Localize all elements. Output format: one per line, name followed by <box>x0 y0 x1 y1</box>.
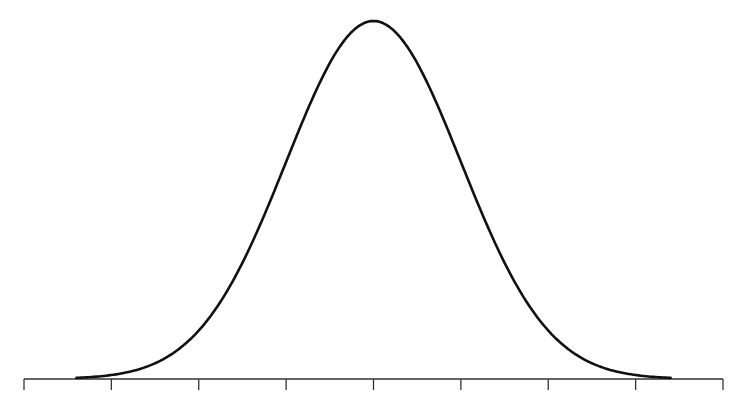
normal-distribution-chart <box>0 0 743 412</box>
bell-curve <box>76 21 670 378</box>
x-axis <box>24 379 723 390</box>
x-axis-ticks <box>24 379 723 390</box>
